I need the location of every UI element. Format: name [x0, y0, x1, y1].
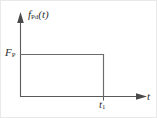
x-axis-symbol: t: [147, 90, 150, 102]
pulse-end-label: t1: [99, 99, 105, 111]
y-axis-arrow-icon: [17, 12, 24, 23]
amplitude-subscript: P: [12, 51, 16, 58]
x-axis-arrow-icon: [136, 93, 147, 100]
pulse-end-subscript: 1: [102, 103, 105, 110]
y-axis-function-argument: (t): [38, 8, 48, 20]
pulse-force-figure: fPd(t) FP t1 t: [0, 0, 157, 118]
x-axis-label: t: [147, 91, 150, 102]
amplitude-label: FP: [5, 47, 16, 59]
y-axis-label: fPd(t): [28, 9, 49, 21]
pulse-waveform: [21, 55, 104, 97]
figure-canvas: [0, 0, 157, 118]
amplitude-symbol: F: [5, 46, 12, 58]
